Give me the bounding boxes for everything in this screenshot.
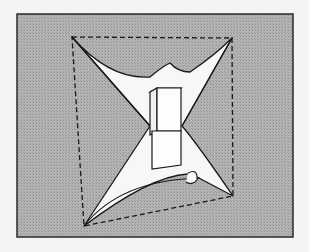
center-block xyxy=(150,88,181,169)
block-side-face xyxy=(150,88,157,135)
diagram-canvas xyxy=(0,0,309,252)
block-front-face xyxy=(157,88,181,131)
block-lower-face xyxy=(152,131,181,169)
